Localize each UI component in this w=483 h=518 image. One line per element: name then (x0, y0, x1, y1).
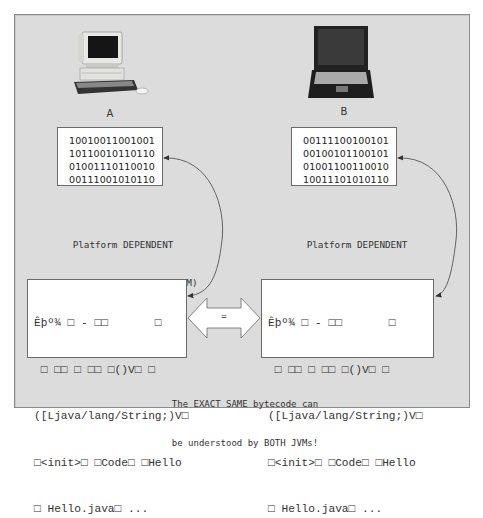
equals-label: = (218, 311, 230, 321)
caption-line: be understood by BOTH JVMs! (150, 437, 340, 450)
bytecode-line: □ Hello.java□ ... (34, 502, 186, 518)
bytecode-line: □ Hello.java□ ... (268, 502, 433, 518)
jvm-translation-arrow-b (398, 158, 457, 296)
jvm-translation-arrow-a (164, 158, 223, 296)
caption: The EXACT SAME bytecode can be understoo… (150, 372, 340, 463)
caption-line: The EXACT SAME bytecode can (150, 398, 340, 411)
